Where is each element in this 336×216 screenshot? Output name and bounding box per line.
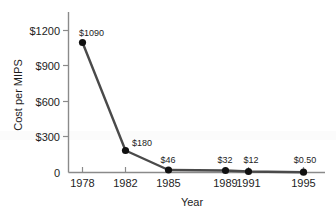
data-label-1978: $1090 bbox=[79, 28, 104, 38]
data-point-1982[interactable] bbox=[122, 147, 129, 154]
x-axis-title: Year bbox=[181, 196, 204, 208]
x-tick-label-1982: 1982 bbox=[113, 177, 137, 189]
line-chart: $1200 $900 $600 $300 0 1978 1982 1985 19… bbox=[0, 0, 336, 216]
data-label-1991: $12 bbox=[243, 155, 258, 165]
chart-container: $1200 $900 $600 $300 0 1978 1982 1985 19… bbox=[0, 0, 336, 216]
data-point-1985[interactable] bbox=[165, 166, 172, 173]
data-label-1989: $32 bbox=[217, 155, 232, 165]
data-label-1995: $0.50 bbox=[294, 155, 317, 165]
data-point-1995[interactable] bbox=[300, 169, 307, 176]
data-label-1982: $180 bbox=[132, 138, 152, 148]
y-tick-label-900: $900 bbox=[36, 60, 60, 72]
y-tick-label-0: 0 bbox=[54, 167, 60, 179]
data-point-1978[interactable] bbox=[79, 39, 86, 46]
y-tick-label-600: $600 bbox=[36, 96, 60, 108]
data-label-1985: $46 bbox=[160, 155, 175, 165]
x-tick-label-1995: 1995 bbox=[291, 177, 315, 189]
x-tick-label-1985: 1985 bbox=[156, 177, 180, 189]
data-point-1989[interactable] bbox=[222, 167, 229, 174]
x-tick-label-1978: 1978 bbox=[70, 177, 94, 189]
y-tick-label-1200: $1200 bbox=[29, 25, 60, 37]
x-tick-label-1991: 1991 bbox=[236, 177, 260, 189]
y-tick-label-300: $300 bbox=[36, 131, 60, 143]
y-axis-title: Cost per MIPS bbox=[12, 59, 24, 131]
data-point-1991[interactable] bbox=[245, 168, 252, 175]
x-tick-label-1989: 1989 bbox=[213, 177, 237, 189]
